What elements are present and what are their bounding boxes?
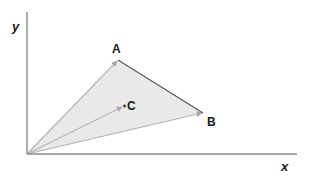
point-B-label: B xyxy=(207,115,216,129)
point-A-label: A xyxy=(112,42,121,56)
vector-diagram: y x A B C xyxy=(0,0,312,179)
y-axis-label: y xyxy=(11,19,20,34)
triangle-region xyxy=(27,60,203,154)
point-C-dot xyxy=(123,105,126,108)
x-axis-label: x xyxy=(280,159,289,174)
point-C-label: C xyxy=(127,99,136,113)
